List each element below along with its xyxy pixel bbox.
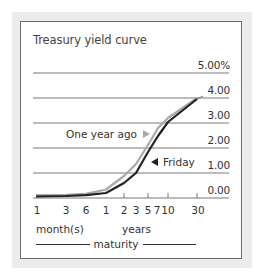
legend-friday: Friday bbox=[151, 156, 195, 168]
legend-label-friday: Friday bbox=[163, 156, 195, 168]
leader-line bbox=[197, 96, 203, 99]
maturity-rule-right bbox=[143, 244, 197, 245]
y-tick-label: 4.00 bbox=[186, 84, 230, 96]
x-tick-label: 5 bbox=[145, 204, 152, 216]
x-tick-label: 3 bbox=[63, 204, 70, 216]
maturity-label: maturity bbox=[90, 238, 143, 250]
y-tick-label: 2.00 bbox=[186, 134, 230, 146]
legend-one-year-ago: One year ago bbox=[66, 128, 150, 140]
legend-label-one-year-ago: One year ago bbox=[66, 128, 137, 140]
x-tick-label: 3 bbox=[133, 204, 140, 216]
x-tick-label: 7 bbox=[154, 204, 161, 216]
series-line-one-year-ago bbox=[36, 98, 197, 195]
pointer-left-icon bbox=[151, 158, 158, 166]
pointer-right-icon bbox=[143, 130, 150, 138]
x-tick-label: 1 bbox=[103, 204, 110, 216]
x-unit-years: years bbox=[122, 223, 151, 235]
x-tick-label: 1 bbox=[34, 204, 41, 216]
x-tick-label: 6 bbox=[83, 204, 90, 216]
x-unit-months: month(s) bbox=[36, 223, 84, 235]
x-tick-label: 2 bbox=[121, 204, 128, 216]
x-tick-label: 30 bbox=[191, 204, 204, 216]
x-tick-label: 10 bbox=[161, 204, 174, 216]
y-tick-label: 0.00 bbox=[186, 184, 230, 196]
maturity-rule-left bbox=[36, 244, 90, 245]
y-tick-label: 3.00 bbox=[186, 109, 230, 121]
x-axis-title: maturity bbox=[36, 238, 196, 250]
y-tick-label: 5.00% bbox=[186, 59, 230, 71]
